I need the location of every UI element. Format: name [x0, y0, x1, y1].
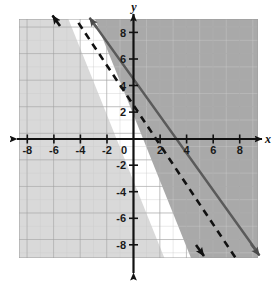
y-tick-label-6: 6	[120, 53, 126, 65]
y-tick-label-4: 4	[120, 80, 127, 92]
y-tick-label--8: -8	[116, 239, 126, 251]
y-tick-label-2: 2	[120, 106, 126, 118]
y-tick-label--2: -2	[116, 159, 126, 171]
x-tick-label-6: 6	[210, 144, 216, 156]
y-axis-label: y	[129, 0, 137, 14]
x-tick-label-8: 8	[237, 144, 243, 156]
x-tick-label--4: -4	[76, 144, 87, 156]
y-tick-label--6: -6	[116, 212, 126, 224]
x-tick-label-4: 4	[184, 144, 191, 156]
origin-label: 0	[121, 144, 127, 156]
y-tick-label--4: -4	[116, 186, 127, 198]
x-axis-label: x	[264, 132, 271, 146]
x-tick-label-2: 2	[157, 144, 163, 156]
x-tick-label--2: -2	[102, 144, 112, 156]
graph-canvas: -8 -6 -4 -2 2 4 6 8 0 8 6 4 2 -2 -4 -6 -…	[0, 0, 279, 282]
x-tick-label--8: -8	[22, 144, 32, 156]
coordinate-plane-figure: -8 -6 -4 -2 2 4 6 8 0 8 6 4 2 -2 -4 -6 -…	[0, 0, 279, 282]
y-tick-label-8: 8	[120, 27, 126, 39]
x-tick-label--6: -6	[49, 144, 59, 156]
